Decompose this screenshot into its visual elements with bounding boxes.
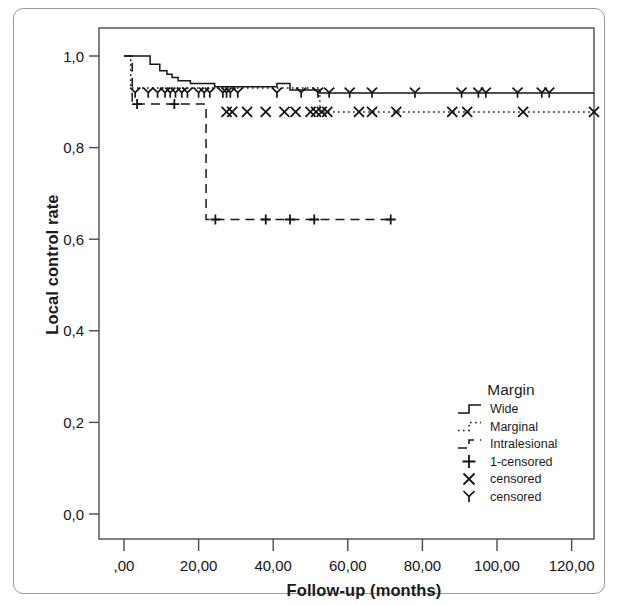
censor-marker-y: [464, 491, 475, 502]
censor-marker-plus: [309, 215, 319, 225]
censor-marker-y: [165, 88, 175, 98]
y-tick-label: 1,0: [63, 48, 84, 65]
y-tick-label: 0,6: [63, 231, 84, 248]
censor-marker-x: [391, 107, 401, 117]
x-tick-label: 40,00: [254, 557, 292, 574]
censor-marker-y: [160, 88, 170, 98]
curve-intralesional: [124, 56, 393, 220]
legend-swatch-dotted-step-line: [458, 423, 481, 431]
censor-marker-plus: [463, 455, 476, 468]
legend-item-1-censored: 1-censored: [463, 455, 553, 469]
censor-marker-plus: [386, 215, 396, 225]
censor-marker-y: [143, 88, 153, 98]
legend-item-label: 1-censored: [490, 455, 553, 469]
legend-item-label: Wide: [490, 402, 519, 416]
censor-marker-x: [317, 107, 327, 117]
series-wide: [124, 56, 594, 98]
censor-marker-x: [279, 107, 289, 117]
censor-marker-x: [227, 107, 237, 117]
legend-item-censored: censored: [464, 472, 542, 486]
censor-marker-plus: [261, 215, 271, 225]
series-intralesional: [124, 56, 396, 225]
censor-marker-y: [205, 88, 215, 98]
kaplan-meier-plot: 1,00,80,60,40,20,0 ,0020,0040,0060,0080,…: [14, 9, 606, 595]
censor-marker-x: [222, 107, 232, 117]
censor-marker-plus: [169, 99, 179, 109]
y-tick-label: 0,8: [63, 139, 84, 156]
series-layer: [124, 56, 599, 225]
censor-marker-x: [291, 107, 301, 117]
censor-marker-x: [306, 107, 316, 117]
y-tick-label: 0,4: [63, 322, 84, 339]
legend-item-censored: censored: [464, 490, 542, 504]
legend-item-marginal: Marginal: [458, 420, 538, 434]
figure-card: Local control rate Follow-up (months) 1,…: [13, 8, 605, 594]
censor-marker-y: [182, 88, 192, 98]
legend-item-intralesional: Intralesional: [458, 437, 557, 451]
legend-swatch-dashed-step-line: [458, 440, 481, 448]
censor-marker-x: [242, 107, 252, 117]
x-tick-label: 80,00: [404, 557, 442, 574]
y-axis-ticks: 1,00,80,60,40,20,0: [63, 48, 99, 523]
x-tick-label: 120,00: [549, 557, 595, 574]
censor-marker-plus: [132, 99, 142, 109]
x-tick-label: ,00: [114, 557, 135, 574]
censor-marker-y: [233, 88, 243, 98]
y-tick-label: 0,0: [63, 506, 84, 523]
censor-marker-x: [354, 107, 364, 117]
censor-marker-y: [272, 88, 282, 98]
censor-marker-x: [261, 107, 271, 117]
x-tick-label: 20,00: [180, 557, 218, 574]
legend-item-label: censored: [490, 490, 541, 504]
censor-marker-x: [311, 107, 321, 117]
legend-item-label: Marginal: [490, 420, 538, 434]
legend-item-wide: Wide: [458, 402, 519, 416]
legend-swatch-solid-step-line: [458, 405, 481, 413]
censor-marker-y: [177, 88, 187, 98]
censor-marker-plus: [210, 215, 220, 225]
legend-item-label: Intralesional: [490, 437, 557, 451]
x-axis-ticks: ,0020,0040,0060,0080,00100,00120,00: [114, 539, 595, 574]
y-tick-label: 0,2: [63, 414, 84, 431]
censor-marker-y: [199, 88, 209, 98]
censor-marker-x: [464, 474, 475, 485]
legend-items: WideMarginalIntralesional1-censoredcenso…: [458, 402, 557, 504]
censor-marker-plus: [285, 215, 295, 225]
censor-marker-y: [296, 88, 306, 98]
legend-item-label: censored: [490, 472, 541, 486]
x-tick-label: 100,00: [474, 557, 520, 574]
series-marginal: [124, 56, 599, 117]
chart-legend: Margin WideMarginalIntralesional1-censor…: [458, 381, 557, 504]
censor-marker-y: [194, 88, 204, 98]
x-tick-label: 60,00: [329, 557, 367, 574]
legend-title: Margin: [487, 381, 534, 398]
